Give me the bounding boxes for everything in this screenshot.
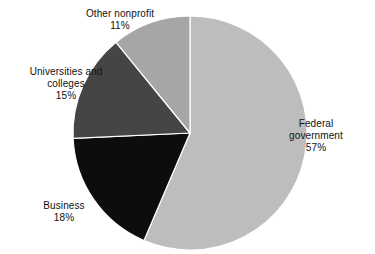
pie-label-universities-and-colleges-line1: Universities and — [30, 66, 103, 78]
pie-label-other-nonprofit-line1: Other nonprofit — [86, 8, 154, 20]
pie-value-other-nonprofit: 11% — [86, 20, 154, 32]
pie-label-business-line1: Business — [43, 200, 84, 212]
pie-label-federal-government-line2: government — [289, 130, 343, 142]
pie-value-federal-government: 57% — [289, 142, 343, 154]
pie-label-universities-and-colleges: Universities and colleges 15% — [30, 66, 103, 102]
pie-value-business: 18% — [43, 212, 84, 224]
pie-slice-group — [73, 16, 307, 250]
pie-label-federal-government: Federal government 57% — [289, 118, 343, 154]
pie-label-federal-government-line1: Federal — [289, 118, 343, 130]
pie-chart: Federal government 57% Business 18% Univ… — [0, 0, 375, 254]
pie-label-universities-and-colleges-line2: colleges — [30, 78, 103, 90]
pie-label-other-nonprofit: Other nonprofit 11% — [86, 8, 154, 32]
pie-label-business: Business 18% — [43, 200, 84, 224]
pie-value-universities-and-colleges: 15% — [30, 90, 103, 102]
